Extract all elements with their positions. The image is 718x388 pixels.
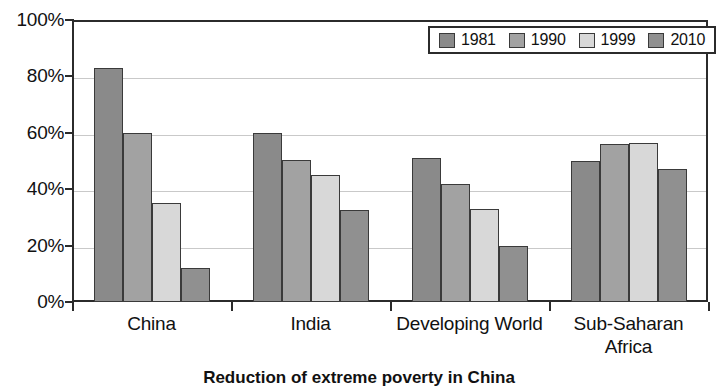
bar [181, 268, 210, 302]
bar [123, 133, 152, 302]
bar [629, 143, 658, 302]
legend-entry: 1999 [579, 31, 636, 49]
y-axis-tick-label: 0% [0, 291, 64, 313]
legend-swatch [579, 33, 595, 48]
x-axis-category-label: China [72, 312, 231, 335]
x-axis-tick-mark [708, 302, 710, 311]
bar [152, 203, 181, 302]
x-axis-category-label: Developing World [390, 312, 549, 335]
x-axis-tick-mark [231, 302, 233, 311]
bar [94, 68, 123, 302]
bar [571, 161, 600, 302]
bar [253, 133, 282, 302]
y-axis-tick-label: 60% [0, 122, 64, 144]
y-axis-tick-label: 100% [0, 9, 64, 31]
x-axis-tick-mark [390, 302, 392, 311]
y-axis-tick-label: 20% [0, 235, 64, 257]
bar [658, 169, 687, 302]
legend-label: 1990 [531, 31, 566, 49]
x-axis-tick-mark [549, 302, 551, 311]
y-axis-tick-label: 80% [0, 65, 64, 87]
bar [470, 209, 499, 302]
x-axis-tick-mark [72, 302, 74, 311]
bar [499, 246, 528, 302]
bar [340, 210, 369, 302]
legend-swatch [439, 33, 455, 48]
legend-label: 2010 [670, 31, 705, 49]
legend-swatch [648, 33, 664, 48]
legend-label: 1999 [601, 31, 636, 49]
chart-caption: Reduction of extreme poverty in China [0, 368, 718, 388]
x-axis-category-label: India [231, 312, 390, 335]
bar [600, 144, 629, 302]
legend-entry: 1981 [439, 31, 496, 49]
bar [282, 160, 311, 302]
legend: 1981199019992010 [428, 26, 716, 54]
legend-entry: 1990 [509, 31, 566, 49]
legend-label: 1981 [461, 31, 496, 49]
bar [441, 184, 470, 302]
legend-entry: 2010 [648, 31, 705, 49]
y-axis-tick-label: 40% [0, 178, 64, 200]
x-axis-category-label: Sub-Saharan Africa [549, 312, 708, 358]
bar [311, 175, 340, 302]
bars-layer [72, 20, 708, 302]
bar [412, 158, 441, 302]
legend-swatch [509, 33, 525, 48]
